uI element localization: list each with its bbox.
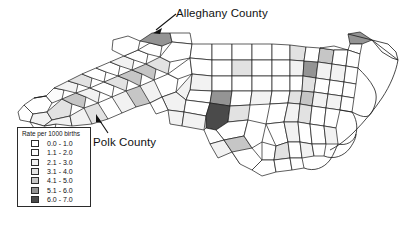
county — [328, 80, 344, 96]
legend-row: 6.0 - 7.0 — [21, 195, 87, 204]
county — [324, 126, 338, 144]
county — [312, 92, 328, 108]
legend-title: Rate per 1000 births — [22, 130, 87, 138]
alleghany-arrow — [156, 14, 176, 30]
county — [288, 91, 302, 104]
county — [340, 96, 354, 112]
county — [140, 33, 172, 46]
county — [272, 60, 290, 76]
county — [252, 60, 272, 76]
county — [232, 44, 252, 60]
map-legend: Rate per 1000 births 0.0 - 1.0 1.1 - 2.0… — [17, 127, 91, 207]
legend-row: 1.1 - 2.0 — [21, 148, 87, 157]
legend-label-0: 0.0 - 1.0 — [47, 140, 73, 147]
county-group-piedmont — [176, 44, 306, 106]
annotation-label-alleghany: Alleghany County — [176, 7, 268, 19]
legend-swatch-3 — [31, 168, 39, 175]
county — [312, 144, 326, 156]
annotation-label-polk: Polk County — [93, 136, 156, 148]
legend-swatch-4 — [31, 177, 39, 184]
county — [318, 48, 334, 64]
county — [212, 76, 232, 91]
county — [326, 94, 342, 110]
county — [332, 50, 348, 66]
legend-row: 2.1 - 3.0 — [21, 158, 87, 167]
county — [190, 44, 212, 60]
legend-row: 4.1 - 5.0 — [21, 176, 87, 185]
legend-label-6: 6.0 - 7.0 — [47, 196, 73, 203]
legend-swatch-1 — [31, 149, 39, 156]
county — [300, 91, 314, 106]
legend-label-4: 4.1 - 5.0 — [47, 177, 73, 184]
county — [168, 110, 184, 126]
legend-label-3: 3.1 - 4.0 — [47, 168, 73, 175]
county — [314, 78, 330, 94]
map-figure: Alleghany County Polk County Rate per 10… — [0, 0, 409, 225]
county — [310, 124, 326, 144]
legend-swatch-0 — [31, 140, 39, 147]
county — [348, 32, 372, 44]
county — [262, 142, 276, 160]
county — [272, 76, 290, 91]
legend-swatch-2 — [31, 159, 39, 166]
county — [290, 158, 304, 170]
county — [252, 44, 272, 60]
county — [212, 44, 232, 60]
county — [316, 62, 332, 80]
county — [290, 60, 304, 76]
legend-row: 3.1 - 4.0 — [21, 167, 87, 176]
county — [330, 64, 346, 82]
county — [304, 47, 320, 62]
county — [212, 60, 232, 76]
legend-swatch-5 — [31, 187, 39, 194]
county — [232, 60, 252, 76]
county — [250, 91, 272, 105]
legend-swatch-6 — [31, 196, 39, 203]
legend-label-5: 5.1 - 6.0 — [47, 187, 73, 194]
county — [290, 45, 306, 61]
legend-label-2: 2.1 - 3.0 — [47, 159, 73, 166]
county — [344, 66, 358, 84]
legend-row: 5.1 - 6.0 — [21, 185, 87, 194]
legend-row: 0.0 - 1.0 — [21, 139, 87, 148]
county — [310, 106, 326, 126]
county — [324, 108, 340, 128]
county — [228, 105, 250, 122]
county — [270, 91, 290, 104]
county — [232, 76, 252, 91]
legend-label-1: 1.1 - 2.0 — [47, 149, 73, 156]
county — [288, 142, 302, 158]
county — [342, 82, 356, 98]
county — [272, 44, 290, 60]
county — [190, 74, 212, 91]
county — [290, 76, 303, 91]
county — [298, 104, 312, 124]
county — [302, 76, 316, 92]
county — [230, 91, 252, 106]
county — [274, 158, 292, 172]
county — [252, 76, 272, 91]
county — [190, 58, 212, 76]
county — [303, 61, 318, 78]
